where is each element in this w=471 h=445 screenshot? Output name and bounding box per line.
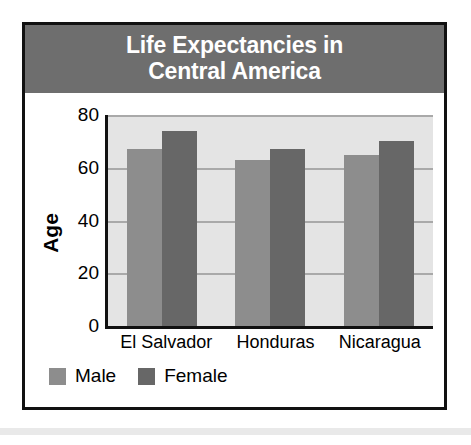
bar-honduras-female[interactable] [270, 149, 305, 326]
chart-card: Life Expectancies in Central America Age… [22, 22, 447, 410]
chart-title-band: Life Expectancies in Central America [25, 25, 444, 93]
legend-swatch-female-icon [138, 368, 155, 385]
x-axis-label-el-salvador: El Salvador [120, 332, 212, 353]
bar-honduras-male[interactable] [235, 160, 270, 326]
x-axis-label-nicaragua: Nicaragua [339, 332, 421, 353]
page-title: Life Expectancies in Central America [126, 33, 343, 85]
legend-item-female[interactable]: Female [138, 365, 227, 387]
y-axis-title: Age [39, 193, 63, 273]
y-axis-tick-label: 0 [88, 315, 99, 337]
legend-label: Female [164, 365, 227, 387]
bar-group [127, 131, 197, 326]
legend-item-male[interactable]: Male [49, 365, 116, 387]
bar-el-salvador-female[interactable] [162, 131, 197, 326]
page-edge-artifact [0, 428, 471, 435]
bar-nicaragua-male[interactable] [344, 155, 379, 326]
y-axis-tick-label: 60 [78, 157, 99, 179]
x-axis-category-labels: El SalvadorHondurasNicaragua [108, 332, 433, 353]
chart-legend: MaleFemale [49, 365, 228, 387]
y-axis-tick-label: 20 [78, 262, 99, 284]
bar-nicaragua-female[interactable] [379, 141, 414, 326]
legend-swatch-male-icon [49, 368, 66, 385]
bar-el-salvador-male[interactable] [127, 149, 162, 326]
chart-body: Age 020406080 El SalvadorHondurasNicarag… [25, 93, 444, 407]
bar-group [344, 141, 414, 326]
legend-label: Male [75, 365, 116, 387]
x-axis-label-honduras: Honduras [236, 332, 314, 353]
bar-group [235, 149, 305, 326]
y-axis-tick-labels: 020406080 [63, 115, 99, 326]
y-axis-tick-label: 40 [78, 210, 99, 232]
bars-layer [108, 115, 433, 326]
y-axis-tick-label: 80 [78, 104, 99, 126]
plot-area [105, 115, 433, 329]
